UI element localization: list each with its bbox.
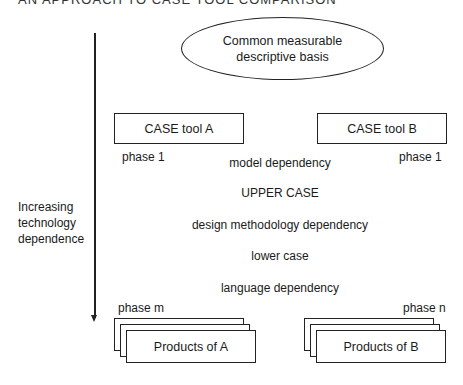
arrow-down-icon [91,315,97,322]
tool-b-phase-start: phase 1 [399,150,442,164]
level-language-dependency: language dependency [160,281,400,295]
axis-label-line-3: dependence [18,231,84,247]
axis-label-line-2: technology [18,215,84,231]
axis-label: Increasing technology dependence [18,199,84,247]
level-model-dependency: model dependency [160,156,400,170]
axis-label-line-1: Increasing [18,199,84,215]
level-design-methodology-dependency: design methodology dependency [160,218,400,232]
ellipse-line-1: Common measurable [223,33,343,49]
ellipse-line-2: descriptive basis [236,49,328,65]
tool-a-phase-end: phase m [118,301,164,315]
cut-off-heading: AN APPROACH TO CASE TOOL COMPARISON [18,0,337,7]
case-tool-a-box: CASE tool A [114,113,244,144]
level-lower-case: lower case [160,249,400,263]
level-upper-case: UPPER CASE [160,186,400,200]
tool-a-phase-start: phase 1 [122,150,165,164]
tool-b-phase-end: phase n [403,301,446,315]
products-a-front-sheet: Products of A [126,330,256,363]
products-b-front-sheet: Products of B [316,330,446,363]
technology-axis-line [94,33,96,318]
case-tool-b-box: CASE tool B [317,113,447,144]
common-basis-ellipse: Common measurable descriptive basis [181,17,384,80]
